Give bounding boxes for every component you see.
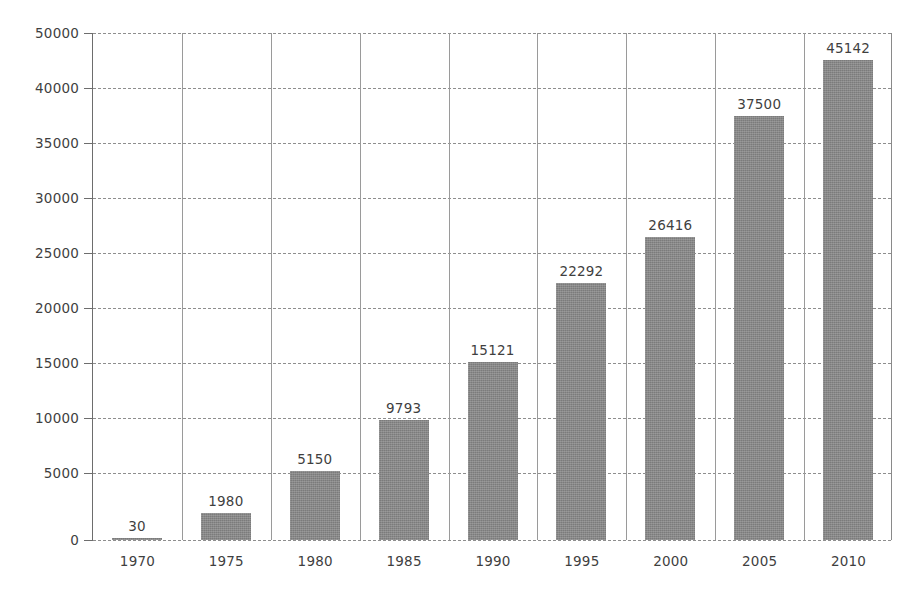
x-axis-label-1980: 1980 (298, 553, 333, 569)
x-axis-label-1990: 1990 (475, 553, 510, 569)
bar-group-1985: 97931985 (360, 33, 449, 540)
bar-chart: 5000040000350003000025000200001500010000… (0, 0, 922, 600)
y-axis-label-15000: 15000 (35, 355, 79, 371)
y-axis-tick-5000: 5000 (84, 473, 93, 474)
bar-value-label-1975: 1980 (208, 493, 243, 509)
bar-group-1990: 151211990 (449, 33, 538, 540)
y-axis-tick-50000: 50000 (84, 33, 93, 34)
y-axis-label-0: 0 (70, 532, 79, 548)
bar-group-1980: 51501980 (271, 33, 360, 540)
bar-group-1995: 222921995 (537, 33, 626, 540)
x-axis-label-2000: 2000 (653, 553, 688, 569)
x-axis-label-1995: 1995 (564, 553, 599, 569)
y-axis-tick-35000: 35000 (84, 143, 93, 144)
x-axis-label-2005: 2005 (742, 553, 777, 569)
y-axis-tick-30000: 30000 (84, 198, 93, 199)
bar-2010[interactable]: 45142 (823, 60, 873, 540)
bar-group-2010: 451422010 (804, 33, 893, 540)
y-axis-label-10000: 10000 (35, 410, 79, 426)
chart-title-ghost (255, 0, 685, 6)
y-axis-label-50000: 50000 (35, 25, 79, 41)
x-axis-label-1985: 1985 (387, 553, 422, 569)
bar-value-label-1980: 5150 (297, 451, 332, 467)
y-axis-label-25000: 25000 (35, 245, 79, 261)
bar-1990[interactable]: 15121 (468, 362, 518, 540)
y-axis-tick-15000: 15000 (84, 363, 93, 364)
bar-value-label-2010: 45142 (826, 40, 870, 56)
y-axis-tick-0: 0 (84, 540, 93, 541)
bar-1975[interactable]: 1980 (201, 513, 251, 540)
y-axis-tick-25000: 25000 (84, 253, 93, 254)
bar-group-2000: 264162000 (626, 33, 715, 540)
bar-1980[interactable]: 5150 (290, 471, 340, 540)
bar-1985[interactable]: 9793 (379, 420, 429, 540)
bar-2000[interactable]: 26416 (645, 237, 695, 540)
plot-area: 5000040000350003000025000200001500010000… (92, 33, 892, 540)
y-axis-tick-10000: 10000 (84, 418, 93, 419)
y-axis-label-5000: 5000 (44, 465, 79, 481)
bar-group-2005: 375002005 (715, 33, 804, 540)
x-axis-label-2010: 2010 (831, 553, 866, 569)
bar-value-label-1970: 30 (128, 518, 146, 534)
y-axis-label-30000: 30000 (35, 190, 79, 206)
y-axis-tick-40000: 40000 (84, 88, 93, 89)
bar-group-1975: 19801975 (182, 33, 271, 540)
x-axis-label-1970: 1970 (120, 553, 155, 569)
y-axis-label-35000: 35000 (35, 135, 79, 151)
bar-value-label-2005: 37500 (737, 96, 781, 112)
bar-value-label-1995: 22292 (559, 263, 603, 279)
y-axis-label-40000: 40000 (35, 80, 79, 96)
bar-group-1970: 301970 (93, 33, 182, 540)
bar-value-label-1990: 15121 (471, 342, 515, 358)
gridline-y-0 (93, 540, 891, 541)
x-axis-label-1975: 1975 (209, 553, 244, 569)
bar-value-label-2000: 26416 (648, 217, 692, 233)
bar-1970[interactable]: 30 (112, 538, 162, 541)
bar-2005[interactable]: 37500 (734, 116, 784, 541)
bar-1995[interactable]: 22292 (556, 283, 606, 540)
y-axis-label-20000: 20000 (35, 300, 79, 316)
y-axis-tick-20000: 20000 (84, 308, 93, 309)
bar-value-label-1985: 9793 (386, 400, 421, 416)
